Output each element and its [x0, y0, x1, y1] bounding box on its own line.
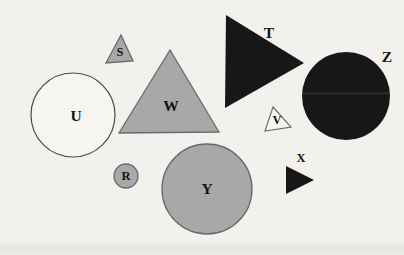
triangle-x: [286, 166, 314, 194]
label-u: U: [70, 107, 81, 124]
shapes-figure: S T U V W X Y Z R: [0, 0, 404, 255]
label-s: S: [117, 45, 124, 59]
scan-seam-line: [303, 93, 389, 95]
label-z: Z: [382, 48, 392, 65]
label-t: T: [264, 24, 275, 41]
label-x: X: [296, 151, 305, 165]
label-r: R: [121, 169, 131, 183]
label-v: V: [272, 113, 281, 127]
label-w: W: [163, 97, 179, 114]
label-y: Y: [201, 180, 212, 197]
scanned-figure-page: S T U V W X Y Z R: [0, 0, 404, 255]
circle-z: [302, 52, 390, 140]
triangle-w: [119, 50, 219, 133]
